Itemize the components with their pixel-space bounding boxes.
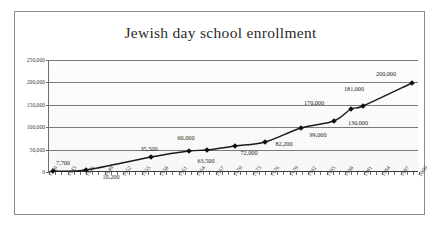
x-tick-mark <box>191 172 192 175</box>
x-tick-mark <box>320 172 321 175</box>
trend-line <box>49 60 419 172</box>
data-point-label: 63,500 <box>197 157 214 164</box>
x-tick-mark <box>228 172 229 175</box>
x-tick-mark <box>154 172 155 175</box>
x-tick-mark <box>394 172 395 175</box>
x-tick-mark <box>376 172 377 175</box>
data-point-label: 35,500 <box>140 145 157 152</box>
chart-frame: Jewish day school enrollment 250,000200,… <box>14 11 425 215</box>
x-tick-mark <box>61 172 62 175</box>
data-point-label: 200,000 <box>376 70 396 77</box>
y-axis-label: 50,000 <box>30 147 45 153</box>
x-tick-mark <box>339 172 340 175</box>
data-point-label: 99,000 <box>309 131 326 138</box>
x-tick-mark <box>80 172 81 175</box>
data-point-label: 181,000 <box>344 85 364 92</box>
chart-title: Jewish day school enrollment <box>15 24 426 42</box>
data-point-label: 170,000 <box>304 99 324 106</box>
x-tick-mark <box>135 172 136 175</box>
x-tick-mark <box>209 172 210 175</box>
x-tick-mark <box>172 172 173 175</box>
data-point-label: 7,700 <box>56 159 70 166</box>
y-axis-label: 200,000 <box>27 79 45 85</box>
plot-area: 250,000200,000150,000100,00050,0000 1940… <box>48 60 418 172</box>
x-tick-mark <box>357 172 358 175</box>
y-axis-label: 100,000 <box>27 124 45 130</box>
x-tick-mark <box>265 172 266 175</box>
data-point-label: 82,200 <box>275 140 292 147</box>
data-point-label: 60,000 <box>177 134 194 141</box>
x-tick-mark <box>98 172 99 175</box>
x-tick-mark <box>246 172 247 175</box>
y-axis-label: 150,000 <box>27 102 45 108</box>
x-tick-mark <box>413 172 414 175</box>
y-axis-label: 0 <box>42 169 45 175</box>
data-point-label: 10,200 <box>102 173 119 180</box>
x-tick-mark <box>283 172 284 175</box>
data-point-label: 130,000 <box>348 119 368 126</box>
y-axis-label: 250,000 <box>27 57 45 63</box>
data-point-label: 72,000 <box>240 149 257 156</box>
x-tick-mark <box>302 172 303 175</box>
